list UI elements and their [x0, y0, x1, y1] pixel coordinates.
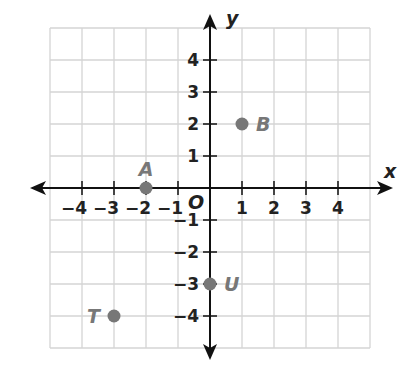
x-tick-label: −4 [61, 198, 87, 218]
point-label-a: A [137, 158, 154, 180]
y-tick-label: −3 [173, 274, 199, 294]
coordinate-plane: xyO −4−3−2−112344321−1−2−3−4 ABUT [0, 0, 416, 380]
y-tick-label: 3 [187, 82, 199, 102]
y-tick-label: 1 [187, 146, 199, 166]
x-tick-label: −2 [125, 198, 151, 218]
point-u [204, 278, 217, 291]
x-axis-label: x [383, 160, 397, 182]
x-tick-label: −3 [93, 198, 119, 218]
y-tick-label: 4 [187, 50, 199, 70]
point-t [108, 310, 121, 323]
point-b [236, 118, 249, 131]
y-tick-label: 2 [187, 114, 199, 134]
x-tick-label: 4 [332, 198, 344, 218]
y-axis-label: y [226, 7, 240, 29]
y-tick-label: −1 [173, 210, 199, 230]
y-tick-label: −2 [173, 242, 199, 262]
x-tick-label: 1 [236, 198, 248, 218]
y-tick-label: −4 [173, 306, 199, 326]
point-a [140, 182, 153, 195]
point-label-t: T [87, 305, 102, 327]
x-tick-label: 2 [268, 198, 280, 218]
point-label-u: U [224, 273, 240, 295]
point-label-b: B [256, 113, 270, 135]
x-tick-label: 3 [300, 198, 312, 218]
